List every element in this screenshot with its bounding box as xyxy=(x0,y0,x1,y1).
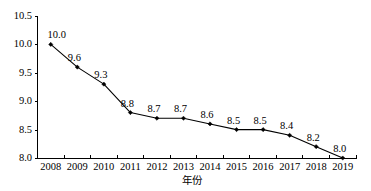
data-point-marker xyxy=(261,128,265,132)
x-axis-tick-label: 2010 xyxy=(93,161,114,172)
data-point-marker xyxy=(314,145,318,149)
y-axis-tick-label: 10.0 xyxy=(14,38,32,49)
y-axis-tick-label: 8.0 xyxy=(19,152,32,163)
x-axis-ticks xyxy=(38,155,357,159)
x-axis-tick-label: 2019 xyxy=(332,161,353,172)
y-axis-tick-label: 8.5 xyxy=(19,124,32,135)
chart-page: 8.08.59.09.510.010.5 2008200920102011201… xyxy=(0,0,371,191)
data-point-label: 10.0 xyxy=(48,29,66,40)
data-point-label: 8.7 xyxy=(147,103,160,114)
data-point-labels: 10.09.69.38.88.78.78.68.58.58.48.28.0 xyxy=(48,29,347,154)
x-axis-tick-label: 2008 xyxy=(40,161,61,172)
x-axis-tick-label: 2012 xyxy=(146,161,167,172)
data-point-label: 8.0 xyxy=(333,143,346,154)
data-point-label: 8.7 xyxy=(174,103,187,114)
data-point-label: 8.5 xyxy=(227,115,240,126)
y-axis-tick-label: 10.5 xyxy=(14,10,32,21)
data-point-label: 9.6 xyxy=(68,52,81,63)
series-markers xyxy=(49,42,345,160)
y-axis-tick-labels: 8.08.59.09.510.010.5 xyxy=(14,10,32,163)
x-axis-title: 年份 xyxy=(182,174,203,186)
data-point-marker xyxy=(181,116,185,120)
x-axis-tick-label: 2018 xyxy=(306,161,327,172)
x-axis-tick-label: 2013 xyxy=(173,161,194,172)
data-point-label: 8.5 xyxy=(254,115,267,126)
data-point-marker xyxy=(341,156,345,160)
data-point-label: 8.6 xyxy=(200,109,213,120)
data-point-marker xyxy=(288,133,292,137)
data-point-marker xyxy=(155,116,159,120)
x-axis-tick-labels: 2008200920102011201220132014201520162017… xyxy=(40,161,353,172)
data-point-label: 8.4 xyxy=(280,120,294,131)
x-axis-tick-label: 2009 xyxy=(67,161,88,172)
line-chart: 8.08.59.09.510.010.5 2008200920102011201… xyxy=(0,0,371,191)
data-point-label: 8.8 xyxy=(121,98,134,109)
x-axis-tick-label: 2017 xyxy=(279,161,300,172)
series-line xyxy=(51,44,343,158)
x-axis-tick-label: 2015 xyxy=(226,161,247,172)
data-point-marker xyxy=(208,122,212,126)
x-axis-tick-label: 2014 xyxy=(200,161,222,172)
data-point-marker xyxy=(234,128,238,132)
data-point-label: 9.3 xyxy=(94,69,107,80)
x-axis-tick-label: 2016 xyxy=(253,161,274,172)
x-axis-tick-label: 2011 xyxy=(120,161,141,172)
y-axis-tick-label: 9.0 xyxy=(19,95,32,106)
y-axis-tick-label: 9.5 xyxy=(19,67,32,78)
data-point-label: 8.2 xyxy=(307,132,320,143)
